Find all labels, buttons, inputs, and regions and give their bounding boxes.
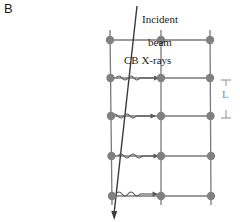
beam-arrowhead [111,211,117,220]
figure-panel-b: B [0,0,240,222]
lattice-atom [157,152,165,160]
incident-beam-label-line2: beam [148,36,172,48]
lattice-atom [157,192,165,200]
lattice-atom [107,112,115,120]
emitted-xray-arrows [112,75,160,196]
lattice-atom [207,192,215,200]
incident-beam-label-line1: Incident [142,13,178,25]
lattice-atom [106,36,114,44]
lattice-atom [206,74,214,82]
lattice-atom [207,152,215,160]
dimension-label: L [222,89,229,101]
lattice-atom [106,74,114,82]
lattice-atom [107,152,115,160]
incident-beam-label: Incident beam [131,2,178,60]
lattice-atom [157,112,165,120]
lattice-atom [206,36,214,44]
cb-xrays-label: CB X-rays [124,55,171,67]
lattice-atom [206,112,214,120]
lattice-diagram [0,0,240,222]
lattice-atom [108,192,116,200]
lattice-atom [157,74,165,82]
